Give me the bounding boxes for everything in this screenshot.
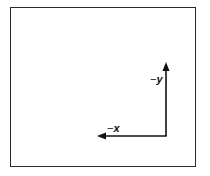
y-axis-arrow [163,62,170,136]
x-axis-label: −x [107,123,120,134]
y-axis-label: −y [150,74,163,85]
axes-diagram [0,0,210,176]
